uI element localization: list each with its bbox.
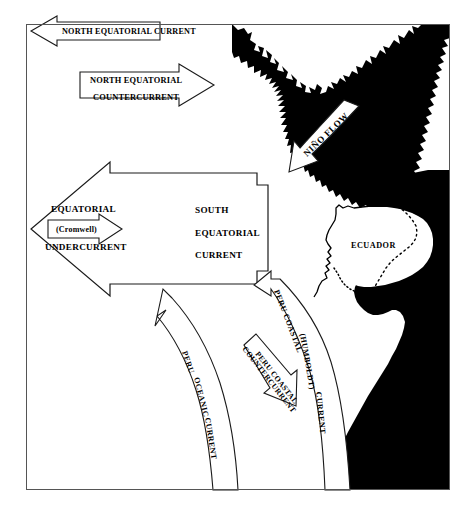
label-south-current: CURRENT (195, 250, 243, 260)
ocean-currents-map: NORTH EQUATORIAL CURRENT NORTH EQUATORIA… (0, 0, 464, 521)
label-equatorial: EQUATORIAL (51, 204, 116, 214)
label-cromwell: (Cromwell) (56, 225, 97, 234)
label-nec-counter-line2: COUNTERCURRENT (93, 93, 179, 102)
label-north-equatorial-current: NORTH EQUATORIAL CURRENT (62, 27, 196, 36)
label-undercurrent: UNDERCURRENT (45, 242, 127, 252)
label-ecuador: ECUADOR (351, 241, 396, 250)
label-nec-counter-line1: NORTH EQUATORIAL (90, 76, 182, 85)
label-south-equatorial: EQUATORIAL (195, 228, 260, 238)
label-south: SOUTH (195, 205, 229, 215)
